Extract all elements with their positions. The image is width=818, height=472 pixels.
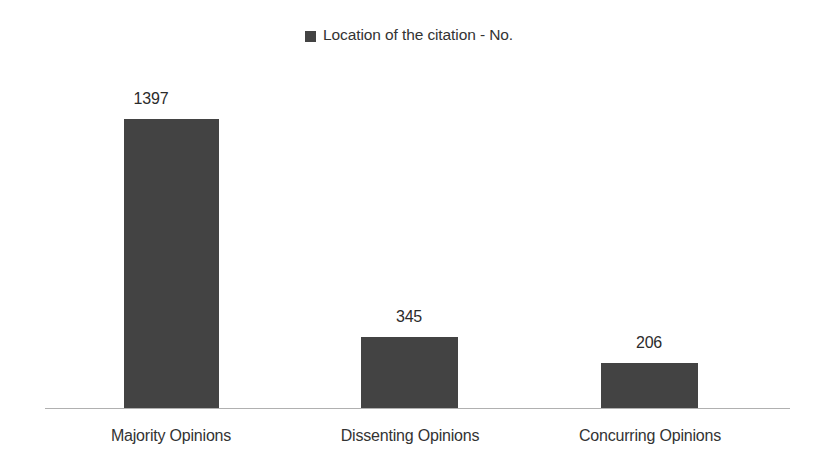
bar-value-label-concurring-opinions: 206 — [569, 334, 729, 352]
x-axis-line — [45, 408, 790, 409]
bar-dissenting-opinions[interactable] — [361, 337, 458, 408]
x-axis-label-concurring-opinions: Concurring Opinions — [520, 427, 780, 445]
bar-concurring-opinions[interactable] — [601, 363, 698, 408]
plot-area: 1397 345 206 Majority Opinions Dissentin… — [0, 0, 818, 472]
x-axis-label-majority-opinions: Majority Opinions — [41, 427, 301, 445]
bar-value-label-majority-opinions: 1397 — [71, 90, 231, 108]
bar-chart: Location of the citation - No. 1397 345 … — [0, 0, 818, 472]
bar-majority-opinions[interactable] — [124, 119, 219, 408]
bar-value-label-dissenting-opinions: 345 — [329, 308, 489, 326]
x-axis-label-dissenting-opinions: Dissenting Opinions — [280, 427, 540, 445]
